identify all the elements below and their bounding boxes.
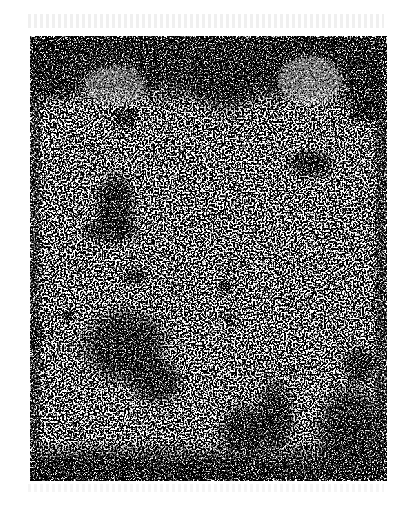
- faint-bleed-through-top: [28, 14, 384, 28]
- scanned-document-image: [30, 36, 387, 481]
- scan-texture: [30, 36, 387, 481]
- faint-bleed-through-bottom: [28, 484, 384, 492]
